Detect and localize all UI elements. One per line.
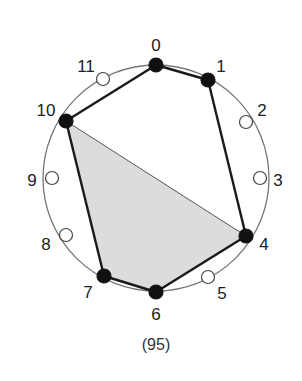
figure-caption: (95) xyxy=(142,336,170,354)
node-label-4: 4 xyxy=(259,236,268,253)
node-label-1: 1 xyxy=(216,58,225,75)
node-label-9: 9 xyxy=(27,172,36,189)
empty-node-9 xyxy=(46,172,59,185)
node-label-10: 10 xyxy=(37,102,56,119)
empty-node-2 xyxy=(240,116,253,129)
node-label-11: 11 xyxy=(77,58,95,75)
node-label-0: 0 xyxy=(151,37,160,54)
node-label-6: 6 xyxy=(151,306,160,323)
node-label-8: 8 xyxy=(41,236,50,253)
empty-node-11 xyxy=(97,73,110,86)
filled-node-4 xyxy=(239,229,253,243)
node-label-7: 7 xyxy=(83,284,92,301)
empty-node-3 xyxy=(254,172,267,185)
filled-node-1 xyxy=(201,73,215,87)
node-label-2: 2 xyxy=(257,102,266,119)
filled-node-0 xyxy=(149,58,163,72)
empty-node-8 xyxy=(60,229,73,242)
node-label-3: 3 xyxy=(273,172,282,189)
filled-node-7 xyxy=(97,269,111,283)
empty-node-5 xyxy=(202,271,215,284)
shaded-region xyxy=(66,121,246,292)
edge-0-1 xyxy=(156,65,208,80)
circle-diagram: 01234567891011 (95) xyxy=(0,0,302,381)
filled-node-6 xyxy=(149,285,163,299)
node-label-5: 5 xyxy=(217,285,226,302)
filled-node-10 xyxy=(59,114,73,128)
diagram-canvas xyxy=(0,0,302,381)
